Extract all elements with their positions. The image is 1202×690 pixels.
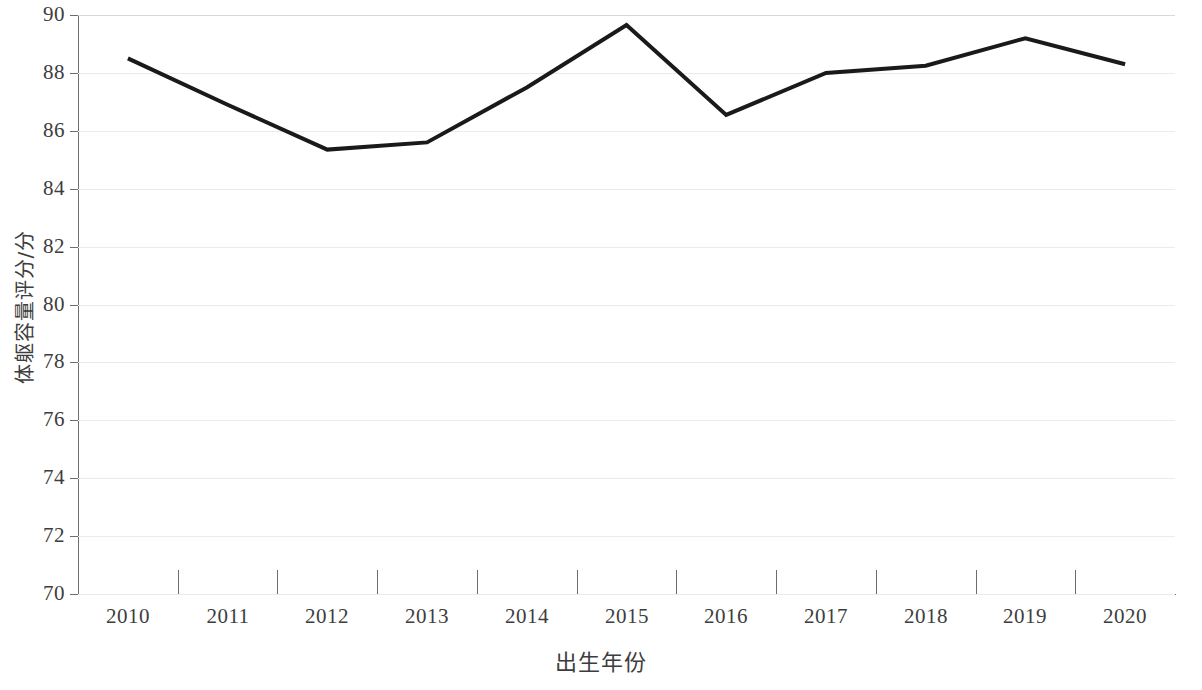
x-axis-tick [976, 570, 977, 594]
x-axis-tick [676, 570, 677, 594]
x-axis-tick [277, 570, 278, 594]
plot-area [78, 15, 1175, 594]
y-axis-tick-label: 80 [5, 294, 65, 315]
x-axis-tick [178, 570, 179, 594]
x-axis-tick [477, 570, 478, 594]
line-chart: 体躯容量评分/分 90 88 86 84 82 80 78 76 74 72 7… [0, 0, 1202, 690]
y-axis-tick-label: 76 [5, 409, 65, 430]
series-line-group [78, 15, 1175, 594]
y-axis-tick-label: 72 [5, 525, 65, 546]
x-axis-tick [377, 570, 378, 594]
y-axis-tick-label: 84 [5, 178, 65, 199]
x-axis-title: 出生年份 [0, 650, 1202, 676]
y-axis-tick-label: 88 [5, 62, 65, 83]
series-line-birth-year-score [128, 25, 1125, 150]
y-axis-tick-label: 82 [5, 236, 65, 257]
y-axis-tick-label: 86 [5, 120, 65, 141]
x-axis-tick [1075, 570, 1076, 594]
x-axis-tick [577, 570, 578, 594]
y-axis-tick-label: 90 [5, 4, 65, 25]
x-axis-tick-label: 2020 [1065, 604, 1185, 628]
y-axis-tick-label: 70 [5, 583, 65, 604]
y-axis-tick-label: 78 [5, 351, 65, 372]
x-axis-tick [876, 570, 877, 594]
y-axis-tick-label: 74 [5, 467, 65, 488]
x-axis-tick [776, 570, 777, 594]
gridline [78, 594, 1175, 595]
